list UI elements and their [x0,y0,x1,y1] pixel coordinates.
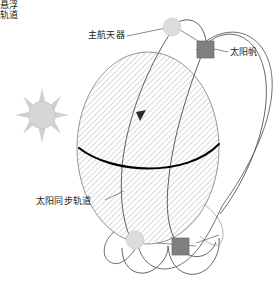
hatched-sphere [77,52,223,245]
leader-main-spacecraft [127,28,166,36]
diagram-canvas [0,0,279,289]
sun-icon [15,88,69,143]
circle-marker-icon[interactable] [163,18,181,36]
orbit-diagram: 主航天器 太阳帆 太阳同步轨道 悬浮 轨道 [0,0,279,289]
square-marker-icon[interactable] [172,238,189,255]
label-sun-synchronous-orbit: 太阳同步轨道 [36,196,91,206]
marker-group-top [163,18,214,58]
leader-solar-sail [214,49,228,52]
square-marker-icon[interactable] [197,41,214,58]
label-main-spacecraft: 主航天器 [88,30,125,40]
label-solar-sail: 太阳帆 [230,47,258,57]
circle-marker-icon[interactable] [126,231,144,249]
